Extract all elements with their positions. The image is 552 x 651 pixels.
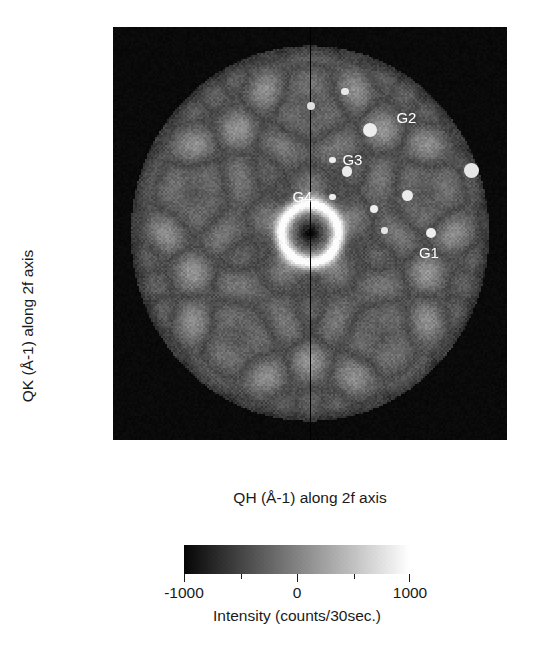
colorbar-tick xyxy=(184,574,185,582)
colorbar-tick-label: 0 xyxy=(293,585,302,601)
bragg-marker-s-upper-right xyxy=(341,88,348,95)
colorbar-tick xyxy=(297,574,298,582)
colorbar-title: Intensity (counts/30sec.) xyxy=(124,607,470,625)
bragg-label-g1: G1 xyxy=(419,245,439,260)
bragg-marker-g3 xyxy=(329,157,335,163)
vertical-center-line xyxy=(310,27,311,440)
bragg-marker-s-top-axis xyxy=(307,102,315,110)
bragg-marker-g1 xyxy=(426,228,436,238)
bragg-marker-s-far-right xyxy=(464,163,479,178)
x-axis-label: QH (Å-1) along 2f axis xyxy=(113,489,507,507)
colorbar-gradient xyxy=(184,545,410,574)
colorbar-tick-label: -1000 xyxy=(164,585,204,601)
bragg-marker-s-mid-05 xyxy=(370,205,378,213)
colorbar-block: -100001000 Intensity (counts/30sec.) xyxy=(184,545,410,574)
bragg-marker-g4 xyxy=(329,194,335,200)
colorbar-tick-minor xyxy=(354,574,355,579)
figure-canvas: G2G3G4G1 4.02.00.0-2.0-4.0-4.0-2.00.02.0… xyxy=(0,0,552,651)
bragg-label-g3: G3 xyxy=(342,152,362,167)
diffraction-plot-area: G2G3G4G1 4.02.00.0-2.0-4.0-4.0-2.00.02.0… xyxy=(113,27,507,440)
bragg-marker-s-mid-01 xyxy=(381,227,387,233)
bragg-label-g4: G4 xyxy=(292,189,312,204)
colorbar-tick-label: 1000 xyxy=(393,585,427,601)
y-axis-label: QK (Å-1) along 2f axis xyxy=(19,249,37,401)
colorbar-tick-minor xyxy=(241,574,242,579)
bragg-label-g2: G2 xyxy=(396,110,416,125)
colorbar-canvas xyxy=(184,545,410,574)
colorbar-tick xyxy=(409,574,410,582)
